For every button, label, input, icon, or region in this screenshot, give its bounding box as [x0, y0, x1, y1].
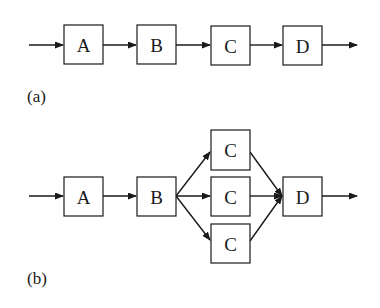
diagram-a: A B C D (a)	[27, 25, 357, 106]
pipeline-diagrams: A B C D (a) A B	[0, 0, 380, 308]
node-c2: C	[211, 177, 250, 216]
node-b: B	[137, 177, 176, 216]
node-label: B	[150, 35, 163, 56]
caption-b: (b)	[27, 269, 47, 288]
edge-c3-d	[250, 196, 282, 241]
node-c3: C	[211, 224, 250, 263]
edge-b-c3	[176, 196, 210, 240]
node-a: A	[64, 177, 103, 216]
node-label: A	[77, 187, 91, 208]
node-label: C	[224, 140, 237, 161]
node-label: D	[296, 187, 310, 208]
node-label: C	[224, 187, 237, 208]
node-d: D	[283, 177, 322, 216]
node-label: C	[224, 234, 237, 255]
edge-b-c1	[176, 152, 210, 196]
node-c: C	[211, 26, 250, 65]
node-label: B	[150, 187, 163, 208]
node-label: D	[296, 36, 310, 57]
node-a: A	[64, 25, 103, 64]
node-b: B	[137, 25, 176, 64]
diagram-b: A B C C C D (b)	[27, 130, 357, 288]
node-d: D	[283, 26, 322, 65]
node-c1: C	[211, 130, 250, 170]
node-label: C	[224, 36, 237, 57]
edge-c1-d	[250, 152, 282, 196]
node-label: A	[77, 35, 91, 56]
caption-a: (a)	[27, 87, 46, 106]
